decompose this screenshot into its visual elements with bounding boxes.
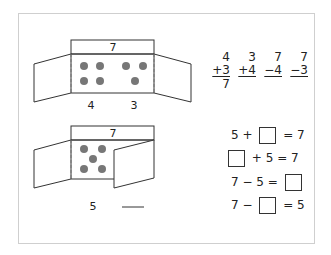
bottom-total-label: 7 (106, 128, 120, 139)
vp1-op: +3 (212, 64, 230, 77)
answer-box[interactable] (285, 174, 302, 191)
equation-1: 5 + = 7 (231, 126, 305, 144)
equation-2: + 5 = 7 (228, 149, 299, 167)
bottom-dots (80, 145, 106, 173)
bottom-right-flap-closed (114, 140, 154, 188)
answer-box[interactable] (228, 150, 245, 167)
top-total-label: 7 (106, 42, 120, 53)
vp1-answer: 7 (212, 78, 230, 91)
equation-4: 7 − = 5 (231, 196, 305, 214)
top-dots (80, 62, 147, 85)
top-right-flap (154, 54, 191, 102)
answer-box[interactable] (259, 197, 276, 214)
answer-box[interactable] (259, 127, 276, 144)
bottom-left-flap (34, 140, 71, 188)
equation-3: 7 − 5 = (231, 173, 305, 191)
top-left-count: 4 (84, 100, 98, 111)
vp3-op: −4 (264, 64, 282, 77)
vp4-op: −3 (290, 64, 308, 77)
vp2-op: +4 (238, 64, 256, 77)
top-right-count: 3 (127, 100, 141, 111)
top-left-flap (34, 54, 71, 102)
bottom-known-count: 5 (86, 201, 100, 212)
